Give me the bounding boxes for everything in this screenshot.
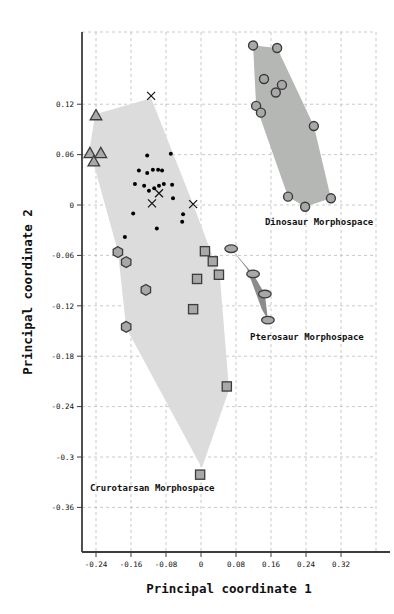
ellipse-marker xyxy=(225,245,238,253)
circle-marker xyxy=(301,202,310,211)
x-tick-label: -0.08 xyxy=(155,560,178,569)
morphospace-polygon xyxy=(253,45,331,206)
y-tick-label: 0.06 xyxy=(56,150,75,159)
dot-marker xyxy=(180,220,184,224)
square-marker xyxy=(222,382,231,391)
dot-marker xyxy=(160,169,164,173)
circle-marker xyxy=(273,43,282,52)
dot-marker xyxy=(147,189,151,193)
y-tick-label: 0 xyxy=(69,201,74,210)
hexagon-marker xyxy=(121,257,130,268)
circle-marker xyxy=(256,108,265,117)
square-marker xyxy=(200,247,209,256)
circle-marker xyxy=(277,80,286,89)
x-tick-label: 0.16 xyxy=(262,560,281,569)
x-tick-label: 0.08 xyxy=(227,560,246,569)
dot-marker xyxy=(133,182,137,186)
circle-marker xyxy=(249,41,258,50)
y-tick-label: -0.24 xyxy=(51,402,74,411)
dot-marker xyxy=(156,168,160,172)
ellipse-marker xyxy=(247,270,260,278)
square-marker xyxy=(192,274,201,283)
dot-marker xyxy=(162,182,166,186)
dot-marker xyxy=(137,169,141,173)
morphospace-label: Dinosaur Morphospace xyxy=(265,217,374,227)
y-axis-title: Principal coordinate 2 xyxy=(20,209,35,375)
dot-marker xyxy=(181,212,185,216)
square-marker xyxy=(208,257,217,266)
dot-marker xyxy=(145,153,149,157)
x-tick-label: 0 xyxy=(199,560,204,569)
x-axis-title: Principal coordinate 1 xyxy=(82,581,376,596)
dot-marker xyxy=(123,235,127,239)
dot-marker xyxy=(169,152,173,156)
dot-marker xyxy=(171,196,175,200)
hexagon-marker xyxy=(141,284,150,295)
pcoa-morphospace-figure: -0.24-0.16-0.0800.080.160.240.320.120.06… xyxy=(0,0,394,614)
dot-marker xyxy=(131,211,135,215)
x-tick-label: 0.24 xyxy=(297,560,316,569)
square-marker xyxy=(196,470,205,479)
y-tick-label: -0.3 xyxy=(56,453,74,462)
scatter-plot-canvas: -0.24-0.16-0.0800.080.160.240.320.120.06… xyxy=(0,0,394,614)
morphospace-label: Crurotarsan Morphospace xyxy=(90,483,215,493)
y-tick-label: -0.36 xyxy=(51,503,74,512)
circle-marker xyxy=(271,88,280,97)
y-tick-label: -0.12 xyxy=(51,302,74,311)
x-tick-label: 0.32 xyxy=(332,560,350,569)
dot-marker xyxy=(170,183,174,187)
circle-marker xyxy=(284,192,293,201)
hexagon-marker xyxy=(121,321,130,332)
ellipse-marker xyxy=(259,290,272,298)
circle-marker xyxy=(260,75,269,84)
morphospace-label: Pterosaur Morphospace xyxy=(250,332,364,342)
dot-marker xyxy=(151,168,155,172)
dot-marker xyxy=(145,171,149,175)
dot-marker xyxy=(157,184,161,188)
square-marker xyxy=(189,305,198,314)
hexagon-marker xyxy=(113,247,122,258)
morphospace-polygon xyxy=(89,98,229,468)
circle-marker xyxy=(326,194,335,203)
y-tick-label: -0.06 xyxy=(51,251,74,260)
x-tick-label: -0.24 xyxy=(85,560,108,569)
y-tick-label: 0.12 xyxy=(56,100,74,109)
ellipse-marker xyxy=(262,316,275,324)
morphospace-polygon xyxy=(231,249,268,320)
circle-marker xyxy=(309,122,318,131)
x-tick-label: -0.16 xyxy=(120,560,143,569)
dot-marker xyxy=(155,227,159,231)
square-marker xyxy=(214,270,223,279)
y-tick-label: -0.18 xyxy=(51,352,74,361)
dot-marker xyxy=(142,184,146,188)
